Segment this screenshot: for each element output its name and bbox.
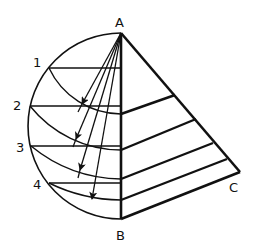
parallel-1	[121, 95, 175, 114]
parallel-4	[121, 159, 227, 200]
label-4: 4	[33, 177, 41, 192]
line-BC	[121, 172, 240, 219]
arrow-2	[76, 33, 121, 139]
label-3: 3	[16, 140, 24, 155]
label-2: 2	[13, 98, 21, 113]
line-AC	[121, 33, 240, 172]
label-1: 1	[33, 55, 41, 70]
swing-arc-4	[49, 183, 121, 200]
label-A: A	[115, 15, 124, 30]
ray-1-ext	[78, 104, 82, 112]
label-B: B	[116, 228, 125, 243]
ray-3-ext	[78, 170, 80, 178]
parallel-3	[121, 143, 213, 179]
semicircle-arc	[28, 33, 121, 219]
parallel-2	[121, 119, 196, 150]
swing-arc-3	[31, 146, 121, 179]
swing-arc-1	[49, 68, 121, 114]
diagram-canvas: A B C 1 2 3 4	[0, 0, 258, 251]
geometry-diagram: A B C 1 2 3 4	[0, 0, 258, 251]
label-C: C	[229, 180, 238, 195]
